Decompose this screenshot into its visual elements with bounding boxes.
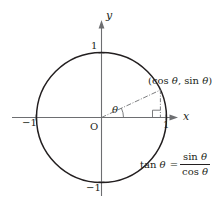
unit-circle-figure: y x O −1 1 1 −1 θ (cos θ, sin θ) tan θ =… xyxy=(0,0,220,205)
radius-line xyxy=(102,90,161,118)
fraction-numerator: sin θ xyxy=(181,151,209,164)
sin-function-name: sin xyxy=(184,75,202,86)
x-axis-label: x xyxy=(183,111,189,122)
tick-label-y-bottom: −1 xyxy=(86,183,101,193)
fraction-denominator: cos θ xyxy=(180,164,210,178)
right-angle-marker xyxy=(153,110,161,117)
origin-label: O xyxy=(90,122,98,132)
cos-function-name: cos xyxy=(152,75,172,86)
theta-angle-label: θ xyxy=(112,105,118,115)
tan-function-name: tan θ xyxy=(140,159,166,170)
tan-fn-text: tan xyxy=(140,159,160,170)
sin-over-cos-fraction: sin θ cos θ xyxy=(180,151,210,177)
y-axis-arrowhead xyxy=(99,20,105,29)
tick-label-y-top: 1 xyxy=(91,41,97,51)
cos-theta-symbol: θ xyxy=(202,166,208,177)
y-axis xyxy=(99,20,105,196)
x-axis-arrowhead xyxy=(170,115,179,121)
y-axis-label: y xyxy=(106,10,112,21)
paren-close: ) xyxy=(208,75,212,86)
point-coordinates-label: (cos θ, sin θ) xyxy=(148,76,212,86)
sin-fn-text: sin xyxy=(183,151,201,162)
tan-theta-symbol: θ xyxy=(160,159,166,170)
tangent-identity-formula: tan θ = sin θ cos θ xyxy=(140,151,210,177)
sin-theta-symbol: θ xyxy=(201,151,207,162)
equals-sign: = xyxy=(170,159,178,170)
tick-label-x-right: 1 xyxy=(163,120,169,130)
angle-arc xyxy=(121,108,123,117)
tick-label-x-left: −1 xyxy=(22,118,37,128)
cos-fn-text: cos xyxy=(182,166,202,177)
